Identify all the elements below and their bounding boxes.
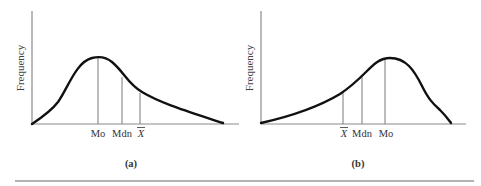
mode-label-a: Mo — [91, 128, 106, 139]
panel-a: Frequency Mo Mdn X (a) — [14, 11, 239, 170]
distribution-curve-a — [32, 57, 223, 124]
mean-label-a-text: X — [137, 128, 145, 139]
mean-label-b-text: X — [340, 128, 348, 139]
distribution-curve-b — [261, 58, 451, 123]
panel-caption-a: (a) — [125, 158, 138, 170]
y-axis-label-b: Frequency — [243, 44, 255, 91]
median-label-a: Mdn — [112, 128, 133, 139]
median-label-b: Mdn — [352, 128, 373, 139]
mean-label-a: X — [137, 128, 145, 140]
y-axis-label-a: Frequency — [14, 44, 26, 91]
panel-b: Frequency X Mdn Mo (b) — [243, 11, 466, 170]
mode-label-b: Mo — [379, 128, 394, 139]
panel-caption-b: (b) — [352, 158, 365, 170]
mean-label-b: X — [340, 128, 348, 140]
skewed-distributions-figure: Frequency Mo Mdn X (a) Frequency X M — [0, 0, 481, 186]
